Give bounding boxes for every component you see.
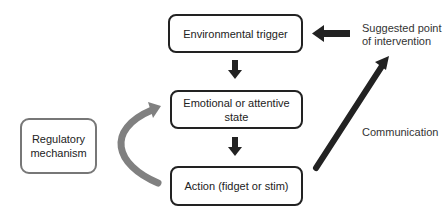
arrow-intervention-to-trigger	[312, 25, 350, 42]
node-label-line1: Regulatory	[32, 132, 85, 146]
node-emotional-state: Emotional or attentive state	[170, 90, 303, 129]
node-environmental-trigger: Environmental trigger	[168, 14, 303, 53]
intervention-label: Suggested point of intervention	[362, 22, 442, 48]
communication-text: Communication	[362, 126, 438, 138]
arrow-regulatory-loop	[121, 102, 161, 183]
node-label: Action (fidget or stim)	[185, 179, 289, 193]
node-action: Action (fidget or stim)	[170, 166, 303, 206]
arrow-trigger-to-state	[228, 60, 242, 79]
communication-label: Communication	[362, 126, 438, 139]
node-regulatory-mechanism: Regulatory mechanism	[20, 118, 97, 174]
node-label-line2: mechanism	[30, 146, 86, 160]
node-label: Emotional or attentive state	[172, 96, 301, 124]
intervention-label-line1: Suggested point	[362, 22, 442, 35]
node-label: Environmental trigger	[183, 27, 288, 41]
arrow-communication	[316, 56, 389, 168]
intervention-label-line2: of intervention	[362, 35, 442, 48]
arrow-state-to-action	[228, 137, 242, 156]
